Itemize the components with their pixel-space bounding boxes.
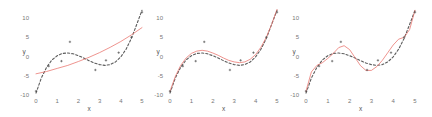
data-point <box>203 41 205 43</box>
x-axis-label: x <box>359 105 363 112</box>
true-function-line <box>36 10 142 93</box>
x-axis-label: x <box>222 105 226 112</box>
x-tick-label: 4 <box>254 98 258 104</box>
y-tick-label: 0 <box>26 54 30 60</box>
x-tick-label: 2 <box>211 98 215 104</box>
y-tick-label: 5 <box>160 34 164 40</box>
x-tick-label: 1 <box>56 98 60 104</box>
y-tick-label: 10 <box>292 15 299 21</box>
data-point <box>340 41 342 43</box>
panel-2: -10-50510012345xy <box>154 10 279 113</box>
data-point <box>390 51 392 53</box>
x-tick-label: 2 <box>77 98 81 104</box>
x-tick-label: 1 <box>190 98 194 104</box>
data-point <box>60 60 62 62</box>
x-tick-label: 1 <box>326 98 330 104</box>
y-tick-label: -10 <box>154 92 163 98</box>
data-point <box>194 60 196 62</box>
x-tick-label: 4 <box>392 98 396 104</box>
y-tick-label: -10 <box>290 92 299 98</box>
x-tick-label: 4 <box>119 98 123 104</box>
data-point <box>69 41 71 43</box>
data-point <box>377 59 379 61</box>
y-tick-label: 5 <box>26 34 30 40</box>
x-tick-label: 2 <box>348 98 352 104</box>
x-axis-label: x <box>87 105 91 112</box>
data-point <box>239 59 241 61</box>
x-tick-label: 5 <box>413 98 417 104</box>
y-tick-label: 5 <box>296 34 300 40</box>
fitted-curve-line <box>306 10 415 91</box>
y-tick-label: 10 <box>22 15 29 21</box>
y-tick-label: -5 <box>158 73 164 79</box>
y-tick-label: -5 <box>24 73 30 79</box>
data-point <box>105 59 107 61</box>
y-tick-label: -10 <box>20 92 29 98</box>
fitted-curve-line <box>170 10 277 92</box>
x-tick-label: 0 <box>168 98 172 104</box>
x-tick-label: 0 <box>34 98 38 104</box>
data-point <box>117 51 119 53</box>
y-tick-label: 10 <box>156 15 163 21</box>
x-tick-label: 3 <box>98 98 102 104</box>
data-point <box>331 60 333 62</box>
panel-3: -10-50510012345xy <box>290 10 417 112</box>
data-point <box>229 69 231 71</box>
x-tick-label: 5 <box>140 98 144 104</box>
data-point <box>94 69 96 71</box>
data-point <box>252 51 254 53</box>
x-tick-label: 0 <box>304 98 308 104</box>
true-function-line <box>306 10 415 93</box>
y-tick-label: 0 <box>160 54 164 60</box>
chart-figure: -10-50510012345xy -10-50510012345xy -10-… <box>0 0 432 117</box>
true-function-line <box>170 10 277 93</box>
y-tick-label: 0 <box>296 54 300 60</box>
fitted-curve-line <box>36 28 142 74</box>
x-tick-label: 3 <box>370 98 374 104</box>
y-tick-label: -5 <box>294 73 300 79</box>
panel-1: -10-50510012345xy <box>20 10 144 112</box>
x-tick-label: 3 <box>233 98 237 104</box>
x-tick-label: 5 <box>275 98 279 104</box>
